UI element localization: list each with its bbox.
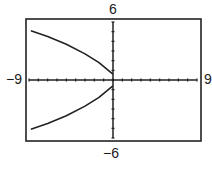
x-max-label: 9 <box>204 72 212 86</box>
y-min-label: −6 <box>103 146 119 160</box>
y-max-label: 6 <box>109 2 117 16</box>
x-min-label: −9 <box>6 72 22 86</box>
curve-branch-2 <box>31 86 113 130</box>
curve-branch-1 <box>31 31 113 74</box>
